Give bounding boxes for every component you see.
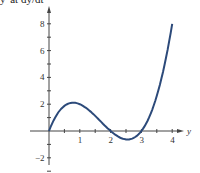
x-axis-arrow-icon — [177, 129, 184, 133]
svg-text:2: 2 — [40, 99, 45, 109]
x-axis-label: y — [186, 126, 191, 136]
svg-text:4: 4 — [40, 72, 45, 82]
chart: y 1234 −22468 — [0, 0, 200, 173]
svg-text:2: 2 — [109, 135, 114, 145]
svg-text:−2: −2 — [35, 153, 45, 163]
data-curve — [49, 24, 172, 140]
svg-text:3: 3 — [139, 135, 144, 145]
svg-text:4: 4 — [170, 135, 175, 145]
y-axis — [47, 6, 51, 165]
y-axis-arrow-icon — [47, 6, 51, 13]
svg-text:1: 1 — [78, 135, 83, 145]
svg-text:8: 8 — [40, 19, 45, 29]
svg-text:6: 6 — [40, 46, 45, 56]
